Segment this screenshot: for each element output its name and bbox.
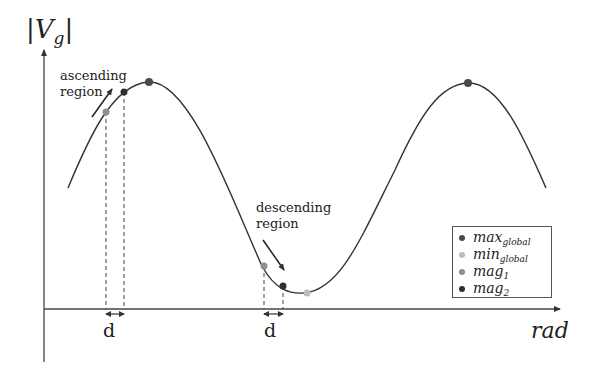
- max-global-point-2: [464, 79, 472, 87]
- descending-region-label: descending region: [256, 200, 331, 232]
- mag1-point-descending: [261, 263, 268, 270]
- legend-item-mag1: mag1: [459, 263, 551, 280]
- y-axis-label: |Vg|: [26, 14, 73, 48]
- mag2-point-descending: [280, 283, 287, 290]
- min-global-marker-icon: [459, 252, 465, 258]
- descending-label-line2: region: [256, 216, 331, 232]
- max-global-marker-icon: [459, 235, 465, 241]
- legend-item-max-global: maxglobal: [459, 229, 551, 246]
- ascending-label-line2: region: [60, 84, 127, 100]
- diagram-canvas: |Vg| ascending region descending region …: [0, 0, 594, 373]
- diagram-svg: [0, 0, 594, 373]
- max-global-point-1: [145, 78, 153, 86]
- legend: maxglobal minglobal mag1 mag2: [452, 226, 552, 298]
- ascending-label-line1: ascending: [60, 68, 127, 84]
- spacing-label-2: d: [264, 319, 276, 341]
- legend-item-mag2: mag2: [459, 280, 551, 297]
- descending-label-line1: descending: [256, 200, 331, 216]
- mag1-point-ascending: [103, 109, 110, 116]
- min-global-point: [304, 290, 311, 297]
- x-axis-label: rad: [531, 318, 569, 343]
- mag1-marker-icon: [459, 269, 465, 275]
- ascending-region-label: ascending region: [60, 68, 127, 100]
- mag2-marker-icon: [459, 286, 465, 292]
- legend-item-min-global: minglobal: [459, 246, 551, 263]
- spacing-label-1: d: [103, 319, 115, 341]
